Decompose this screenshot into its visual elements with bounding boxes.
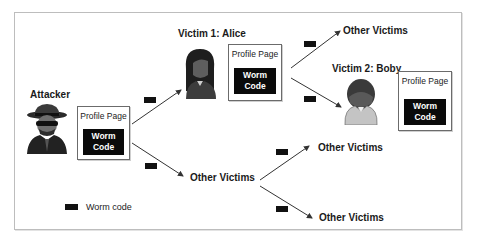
worm-chip [304, 41, 316, 47]
arrow-alice-to-boby [291, 78, 341, 107]
profile-title: Profile Page [399, 76, 451, 86]
arrow-others-to-bottom [260, 186, 312, 218]
other-victims-label: Other Victims [318, 142, 383, 153]
arrow-attacker-to-alice [132, 90, 181, 124]
other-victims-label: Other Victims [343, 25, 408, 36]
worm-chip [276, 149, 288, 155]
worm-code-line2: Code [404, 112, 446, 123]
worm-code-line2: Code [234, 81, 276, 92]
worm-code-line2: Code [83, 142, 124, 153]
profile-title: Profile Page [78, 111, 129, 121]
legend-label: Worm code [86, 202, 132, 212]
alice-avatar-icon [180, 47, 220, 99]
worm-code-line1: Worm [404, 101, 446, 112]
attacker-avatar-icon [24, 104, 70, 154]
other-victims-label: Other Victims [190, 172, 255, 183]
worm-code-box: Worm Code [404, 99, 446, 125]
attacker-profile-page: Profile Page Worm Code [77, 106, 130, 160]
worm-chip [304, 96, 316, 102]
other-victims-label: Other Victims [319, 212, 384, 223]
boby-profile-page: Profile Page Worm Code [398, 71, 452, 131]
legend-worm-chip [65, 204, 78, 210]
worm-code-box: Worm Code [83, 129, 124, 155]
attacker-label: Attacker [30, 89, 70, 100]
worm-chip [144, 97, 156, 103]
alice-profile-page: Profile Page Worm Code [228, 44, 282, 101]
victim1-label: Victim 1: Alice [178, 28, 246, 39]
worm-chip [276, 206, 288, 212]
worm-code-box: Worm Code [234, 68, 276, 94]
profile-title: Profile Page [229, 49, 281, 59]
worm-chip [145, 163, 157, 169]
worm-code-line1: Worm [83, 131, 124, 142]
boby-avatar-icon [341, 77, 381, 125]
victim2-label: Victim 2: Boby [332, 63, 401, 74]
arrow-attacker-to-others [132, 143, 183, 176]
worm-code-line1: Worm [234, 70, 276, 81]
